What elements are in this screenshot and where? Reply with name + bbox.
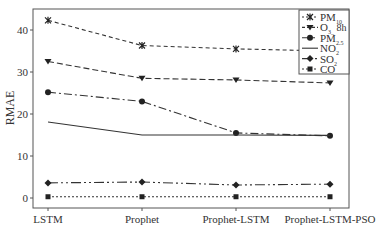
series-line-o3_8h: [48, 62, 330, 83]
x-tick-label: Prophet-LSTM: [202, 213, 269, 225]
series-line-pm25: [48, 92, 330, 136]
series-line-no2: [48, 122, 330, 135]
plot-area: [45, 17, 334, 199]
data-point-marker: [327, 181, 334, 188]
series-line-pm10: [48, 20, 330, 51]
legend: PM10O3_ 8hPM2.5NO2SO2CO: [299, 10, 349, 75]
legend-label-co: CO: [320, 63, 335, 75]
series-line-so2: [48, 182, 330, 185]
x-tick-label: Prophet: [125, 213, 159, 225]
y-tick-label: 20: [17, 108, 29, 120]
data-point-marker: [234, 194, 239, 199]
legend-marker: [308, 67, 313, 72]
rmae-line-chart: 010203040RMAELSTMProphetProphet-LSTMProp…: [0, 0, 379, 234]
y-tick-label: 10: [17, 150, 29, 162]
data-point-marker: [45, 89, 51, 95]
y-tick-label: 0: [23, 192, 29, 204]
legend-marker: [307, 35, 313, 41]
data-point-marker: [46, 194, 51, 199]
data-point-marker: [140, 194, 145, 199]
data-point-marker: [45, 179, 52, 186]
x-tick-label: Prophet-LSTM-PSO: [284, 213, 375, 225]
y-tick-label: 30: [17, 66, 29, 78]
data-point-marker: [139, 98, 145, 104]
data-point-marker: [139, 179, 146, 186]
x-tick-label: LSTM: [33, 213, 63, 225]
data-point-marker: [328, 194, 333, 199]
data-point-marker: [233, 181, 240, 188]
y-tick-label: 40: [17, 24, 29, 36]
y-axis-label: RMAE: [3, 91, 17, 126]
data-point-marker: [139, 76, 146, 82]
